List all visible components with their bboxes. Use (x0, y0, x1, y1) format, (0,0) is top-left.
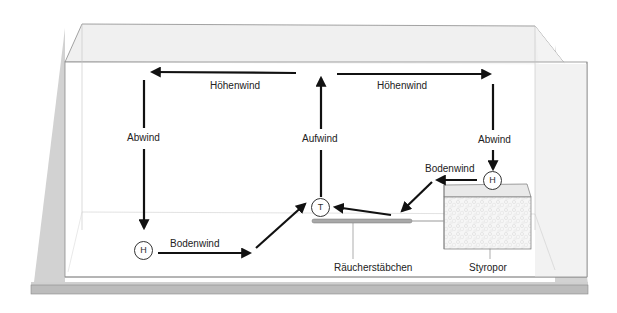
hoehenwind-left-arrow (152, 72, 296, 73)
convection-tank-diagram: Höhenwind Höhenwind Abwind Abwind Aufwin… (0, 0, 617, 313)
styropor-block (444, 184, 531, 249)
label-hoehenwind-right: Höhenwind (377, 80, 427, 92)
label-abwind-left: Abwind (127, 132, 160, 144)
label-aufwind: Aufwind (302, 133, 338, 145)
label-bodenwind-right: Bodenwind (425, 163, 474, 175)
label-raeucherstaebchen: Räucherstäbchen (334, 262, 412, 274)
tank-illustration (0, 0, 617, 313)
label-bodenwind-left: Bodenwind (170, 238, 219, 250)
label-hoehenwind-left: Höhenwind (210, 80, 260, 92)
high-pressure-left-marker: H (134, 241, 153, 260)
label-abwind-right: Abwind (478, 134, 511, 146)
label-styropor: Styropor (469, 262, 507, 274)
high-pressure-right-marker: H (483, 171, 502, 190)
low-pressure-marker: T (311, 198, 330, 217)
